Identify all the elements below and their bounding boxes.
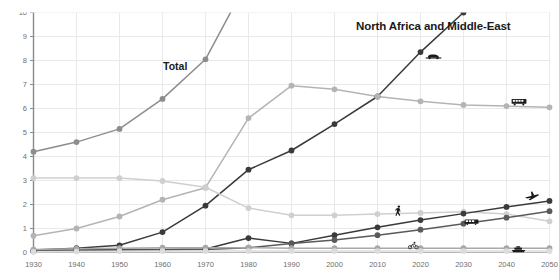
svg-text:2010: 2010: [369, 260, 386, 269]
svg-text:5: 5: [23, 128, 27, 137]
svg-text:6: 6: [23, 104, 27, 113]
svg-text:1960: 1960: [154, 260, 171, 269]
chart-title: North Africa and Middle-East: [356, 20, 511, 32]
svg-text:2030: 2030: [455, 260, 472, 269]
svg-text:9: 9: [23, 32, 27, 41]
series-label-total: Total: [163, 60, 187, 72]
svg-text:0: 0: [23, 248, 27, 257]
svg-text:2000: 2000: [326, 260, 343, 269]
svg-text:1950: 1950: [111, 260, 128, 269]
svg-text:2040: 2040: [498, 260, 515, 269]
svg-text:1930: 1930: [25, 260, 42, 269]
svg-text:7: 7: [23, 80, 27, 89]
svg-text:8: 8: [23, 56, 27, 65]
line-chart-plot: 012345678910 193019401950196019701980199…: [0, 0, 559, 280]
svg-text:3: 3: [23, 176, 27, 185]
svg-text:1980: 1980: [240, 260, 257, 269]
svg-text:1: 1: [23, 224, 27, 233]
svg-text:2020: 2020: [412, 260, 429, 269]
svg-text:1990: 1990: [283, 260, 300, 269]
svg-text:1970: 1970: [197, 260, 214, 269]
svg-text:2: 2: [23, 200, 27, 209]
svg-text:1940: 1940: [68, 260, 85, 269]
svg-text:4: 4: [23, 152, 27, 161]
svg-text:2050: 2050: [541, 260, 558, 269]
chart-container: 012345678910 193019401950196019701980199…: [0, 0, 559, 280]
